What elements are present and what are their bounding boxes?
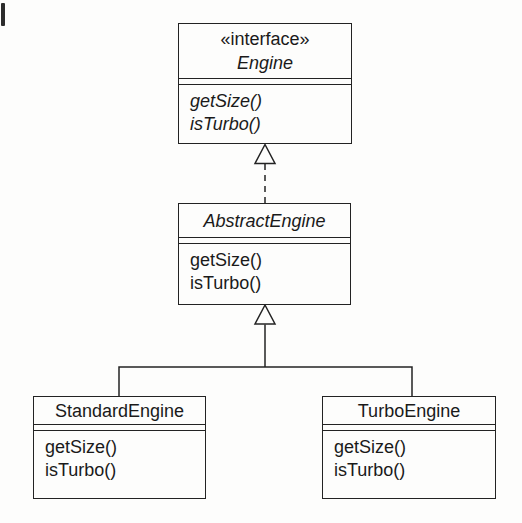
standard-engine-name-compartment: StandardEngine bbox=[34, 397, 205, 425]
abstract-engine-method: isTurbo() bbox=[190, 272, 350, 295]
engine-class-name: Engine bbox=[237, 51, 293, 75]
realization-arrowhead-hollow-triangle-icon bbox=[255, 145, 275, 164]
uml-class-diagram: «interface» Engine getSize() isTurbo() A… bbox=[0, 0, 522, 523]
abstract-engine-class-name: AbstractEngine bbox=[203, 209, 325, 233]
class-box-abstract-engine: AbstractEngine getSize() isTurbo() bbox=[178, 203, 351, 305]
standard-engine-methods-compartment: getSize() isTurbo() bbox=[34, 431, 205, 498]
abstract-engine-name-compartment: AbstractEngine bbox=[179, 204, 350, 238]
turbo-engine-name-compartment: TurboEngine bbox=[323, 397, 495, 425]
engine-method: isTurbo() bbox=[190, 113, 351, 136]
generalization-branch-lines bbox=[119, 367, 412, 396]
class-box-standard-engine: StandardEngine getSize() isTurbo() bbox=[33, 396, 206, 499]
standard-engine-method: getSize() bbox=[45, 436, 205, 459]
generalization-arrowhead-hollow-triangle-icon bbox=[255, 305, 275, 324]
class-box-turbo-engine: TurboEngine getSize() isTurbo() bbox=[322, 396, 496, 499]
standard-engine-class-name: StandardEngine bbox=[55, 399, 184, 423]
abstract-engine-methods-compartment: getSize() isTurbo() bbox=[179, 244, 350, 304]
engine-method: getSize() bbox=[190, 90, 351, 113]
engine-name-compartment: «interface» Engine bbox=[179, 24, 351, 79]
engine-methods-compartment: getSize() isTurbo() bbox=[179, 85, 351, 143]
turbo-engine-class-name: TurboEngine bbox=[358, 399, 460, 423]
turbo-engine-method: getSize() bbox=[334, 436, 495, 459]
engine-stereotype: «interface» bbox=[220, 27, 309, 51]
class-box-engine: «interface» Engine getSize() isTurbo() bbox=[178, 23, 352, 144]
turbo-engine-methods-compartment: getSize() isTurbo() bbox=[323, 431, 495, 498]
turbo-engine-method: isTurbo() bbox=[334, 459, 495, 482]
standard-engine-method: isTurbo() bbox=[45, 459, 205, 482]
scan-artifact bbox=[1, 3, 5, 26]
abstract-engine-method: getSize() bbox=[190, 249, 350, 272]
